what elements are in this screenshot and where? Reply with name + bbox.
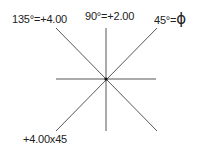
meridian-45-prefix: 45°= [154,14,176,26]
meridian-90-label: 90°=+2.00 [85,11,134,22]
zero-power-symbol: ϕ [176,10,186,28]
meridian-135-label: 135°=+4.00 [12,14,67,25]
prescription-label: +4.00x45 [23,134,67,145]
center-point [104,77,107,80]
meridian-45-label: 45°=ϕ [154,14,186,26]
